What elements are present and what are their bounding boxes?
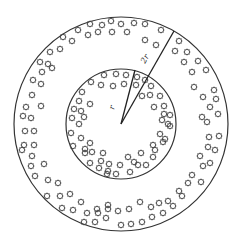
star-particle-icon: [143, 162, 149, 168]
star-particle-icon: [156, 200, 162, 206]
star-particle-icon: [69, 38, 75, 44]
star-particle-icon: [151, 104, 157, 110]
star-particle-icon: [139, 219, 145, 225]
star-particle-icon: [211, 87, 217, 93]
star-particle-icon: [37, 59, 43, 65]
outer-radius-label: 2r: [138, 52, 151, 66]
star-particle-icon: [79, 89, 85, 95]
star-particle-icon: [75, 27, 81, 33]
star-particle-icon: [28, 163, 34, 169]
star-particle-icon: [205, 144, 211, 150]
star-particle-icon: [47, 49, 53, 55]
star-particle-icon: [126, 206, 132, 212]
star-particle-icon: [152, 147, 158, 153]
star-particle-icon: [110, 83, 116, 89]
star-particle-icon: [160, 210, 166, 216]
star-particle-icon: [87, 101, 93, 107]
star-particle-icon: [204, 119, 210, 125]
star-particle-icon: [176, 38, 182, 44]
star-particle-icon: [115, 208, 121, 214]
star-particle-icon: [103, 215, 109, 221]
star-particle-icon: [148, 204, 154, 210]
star-particle-icon: [39, 69, 45, 75]
star-particle-icon: [55, 180, 61, 186]
star-particle-icon: [147, 92, 153, 98]
star-particle-icon: [113, 71, 119, 77]
star-particle-icon: [213, 96, 219, 102]
star-particle-icon: [207, 160, 213, 166]
star-particle-icon: [78, 135, 84, 141]
star-particle-icon: [57, 193, 63, 199]
star-particle-icon: [200, 94, 206, 100]
star-particle-icon: [200, 163, 206, 169]
star-particle-icon: [189, 69, 195, 75]
star-particle-icon: [105, 206, 111, 212]
star-particle-icon: [32, 173, 38, 179]
star-particle-icon: [148, 83, 154, 89]
star-particle-icon: [212, 147, 218, 153]
star-particle-icon: [139, 93, 145, 99]
star-particle-icon: [38, 103, 44, 109]
star-particle-icon: [170, 203, 176, 209]
star-particle-icon: [185, 180, 191, 186]
star-particle-icon: [113, 171, 119, 177]
star-particle-icon: [172, 48, 178, 54]
star-particle-icon: [49, 65, 55, 71]
star-particle-icon: [118, 21, 124, 27]
star-particle-icon: [105, 168, 111, 174]
star-particle-icon: [45, 177, 51, 183]
star-particle-icon: [87, 140, 93, 146]
star-particle-icon: [29, 153, 35, 159]
star-particle-icon: [127, 169, 133, 175]
star-particle-icon: [191, 84, 197, 90]
star-particle-icon: [121, 81, 127, 87]
star-particle-icon: [203, 67, 209, 73]
star-particle-icon: [153, 42, 159, 48]
star-particle-icon: [59, 205, 65, 211]
star-particle-icon: [108, 18, 114, 24]
star-particle-icon: [123, 72, 129, 78]
star-particle-icon: [38, 81, 44, 87]
star-particle-icon: [124, 29, 130, 35]
star-particle-icon: [85, 32, 91, 38]
star-particle-icon: [92, 219, 98, 225]
star-particle-icon: [150, 154, 156, 160]
star-particle-icon: [31, 142, 37, 148]
outer-radius-line: [121, 31, 174, 124]
star-particle-icon: [117, 162, 123, 168]
star-particle-icon: [78, 199, 84, 205]
outer-ring-particles: [19, 18, 222, 228]
star-particle-icon: [44, 193, 50, 199]
star-particle-icon: [161, 103, 167, 109]
star-particle-icon: [100, 150, 106, 156]
concentric-circles-diagram: r 2r: [0, 0, 240, 245]
star-particle-icon: [128, 221, 134, 227]
star-particle-icon: [87, 160, 93, 166]
star-particle-icon: [189, 172, 195, 178]
star-particle-icon: [109, 29, 115, 35]
inner-radius-line: [121, 70, 135, 124]
star-particle-icon: [28, 115, 34, 121]
star-particle-icon: [78, 108, 84, 114]
star-particle-icon: [70, 207, 76, 213]
star-particle-icon: [167, 112, 173, 118]
star-particle-icon: [96, 165, 102, 171]
star-particle-icon: [23, 104, 29, 110]
star-particle-icon: [207, 104, 213, 110]
star-particle-icon: [179, 193, 185, 199]
star-particle-icon: [104, 171, 110, 177]
star-particle-icon: [88, 79, 94, 85]
star-particle-icon: [216, 133, 222, 139]
star-particle-icon: [142, 37, 148, 43]
star-particle-icon: [84, 210, 90, 216]
star-particle-icon: [133, 82, 139, 88]
star-particle-icon: [137, 199, 143, 205]
star-particle-icon: [89, 149, 95, 155]
star-particle-icon: [76, 121, 82, 127]
star-particle-icon: [76, 98, 82, 104]
star-particle-icon: [82, 150, 88, 156]
star-particle-icon: [81, 114, 87, 120]
star-particle-icon: [195, 58, 201, 64]
star-particle-icon: [184, 49, 190, 55]
star-particle-icon: [19, 147, 25, 153]
